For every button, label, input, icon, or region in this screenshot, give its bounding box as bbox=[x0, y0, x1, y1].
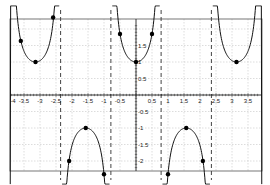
x-tick-label: -2.5 bbox=[51, 98, 62, 104]
curve-branch bbox=[62, 128, 109, 184]
data-point bbox=[184, 126, 188, 130]
x-tick-label: -2 bbox=[69, 98, 75, 104]
data-point bbox=[166, 172, 170, 176]
axes bbox=[10, 19, 262, 171]
data-point bbox=[84, 126, 88, 130]
x-tick-label: -3.5 bbox=[19, 98, 30, 104]
data-points bbox=[19, 15, 239, 176]
y-tick-label: -2 bbox=[138, 158, 144, 164]
x-tick-label: 3.5 bbox=[244, 98, 253, 104]
x-tick-label: 1 bbox=[166, 98, 170, 104]
data-point bbox=[19, 39, 23, 43]
x-tick-label: 0.5 bbox=[148, 98, 157, 104]
data-point bbox=[234, 60, 238, 64]
x-tick-label: 2 bbox=[198, 98, 202, 104]
y-tick-label: -1 bbox=[138, 125, 144, 131]
data-point bbox=[201, 159, 205, 163]
x-tick-label: -1 bbox=[101, 98, 107, 104]
data-point bbox=[134, 60, 138, 64]
data-point bbox=[150, 32, 154, 36]
x-tick-label: 1.5 bbox=[180, 98, 189, 104]
curve-branch bbox=[163, 128, 210, 184]
x-tick-label: 3 bbox=[230, 98, 234, 104]
data-point bbox=[33, 60, 37, 64]
x-tick-label: -4 bbox=[10, 98, 16, 104]
x-tick-label: -1.5 bbox=[83, 98, 94, 104]
data-point bbox=[102, 172, 106, 176]
x-tick-label: -0.5 bbox=[115, 98, 126, 104]
y-tick-label: 0.5 bbox=[138, 76, 147, 82]
x-tick-label: -3 bbox=[37, 98, 43, 104]
x-tick-label: 2.5 bbox=[212, 98, 221, 104]
data-point bbox=[67, 159, 71, 163]
data-point bbox=[118, 32, 122, 36]
y-tick-label: -0.5 bbox=[138, 109, 149, 115]
secant-graph: -4-3.5-3-2.5-2-1.5-1-0.50.511.522.533.51… bbox=[0, 0, 270, 185]
data-point bbox=[51, 15, 55, 19]
y-tick-label: 1.5 bbox=[138, 43, 147, 49]
y-tick-label: -1.5 bbox=[138, 142, 149, 148]
